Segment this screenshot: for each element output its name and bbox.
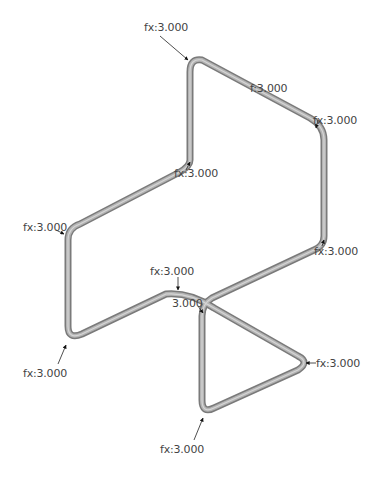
force-label-bottom: fx:3.000 bbox=[160, 444, 204, 455]
force-label-right-lower: fx:3.000 bbox=[314, 246, 358, 257]
force-label-mid-center: fx:3.000 bbox=[174, 168, 218, 179]
force-label-triangle-apex: fx:3.000 bbox=[316, 358, 360, 369]
force-arrow-icon bbox=[58, 345, 66, 364]
force-arrow-icon bbox=[194, 418, 203, 440]
force-label-top-right: fx:3.000 bbox=[313, 115, 357, 126]
force-label-left-lower: fx:3.000 bbox=[23, 368, 67, 379]
force-label-center-inner: 3.000 bbox=[172, 298, 203, 309]
force-label-top: fx:3.000 bbox=[144, 22, 188, 33]
pipe-route bbox=[68, 60, 324, 410]
pipe-diagram-canvas bbox=[0, 0, 392, 481]
force-label-left-upper: fx:3.000 bbox=[23, 222, 67, 233]
force-label-top-right-upper: f:3.000 bbox=[250, 83, 287, 94]
force-arrow-icon bbox=[160, 36, 188, 60]
force-label-center-top: fx:3.000 bbox=[150, 266, 194, 277]
